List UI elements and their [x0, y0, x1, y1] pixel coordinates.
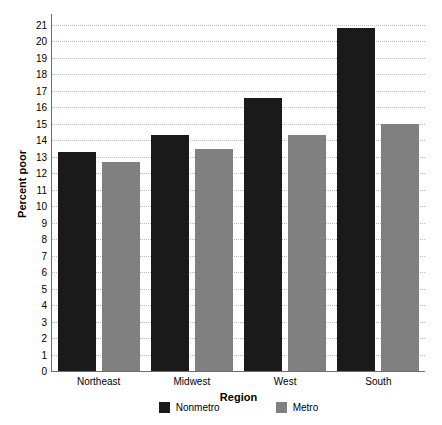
- bar-northeast-metro: [102, 162, 140, 371]
- y-tick-label: 14: [23, 135, 47, 146]
- y-tick-label: 21: [23, 20, 47, 31]
- y-tick-label: 20: [23, 36, 47, 47]
- x-tick-label-south: South: [365, 376, 391, 387]
- y-tick-label: 10: [23, 201, 47, 212]
- legend-label-metro: Metro: [293, 402, 319, 413]
- x-tick-label-northeast: Northeast: [77, 376, 120, 387]
- y-tick-label: 12: [23, 168, 47, 179]
- y-tick-label: 16: [23, 102, 47, 113]
- bar-south-nonmetro: [337, 28, 375, 371]
- gridline: [52, 25, 425, 26]
- y-tick-label: 9: [23, 217, 47, 228]
- bar-northeast-nonmetro: [58, 152, 96, 371]
- y-tick-label: 17: [23, 85, 47, 96]
- y-tick-label: 1: [23, 349, 47, 360]
- y-tick-label: 4: [23, 300, 47, 311]
- bar-west-metro: [288, 135, 326, 371]
- chart-legend: Nonmetro Metro: [52, 402, 425, 413]
- legend-item-metro: Metro: [276, 402, 319, 413]
- legend-item-nonmetro: Nonmetro: [159, 402, 220, 413]
- y-tick-label: 11: [23, 184, 47, 195]
- y-tick-label: 18: [23, 69, 47, 80]
- bar-midwest-nonmetro: [151, 135, 189, 371]
- y-tick-label: 7: [23, 250, 47, 261]
- x-tick-label-midwest: Midwest: [174, 376, 211, 387]
- bar-west-nonmetro: [244, 98, 282, 372]
- plot-area: 0123456789101112131415161718192021Northe…: [52, 25, 425, 371]
- y-tick-label: 0: [23, 366, 47, 377]
- bar-chart: Percent poor 012345678910111213141516171…: [0, 0, 442, 425]
- legend-swatch-icon-nonmetro: [159, 402, 170, 413]
- x-axis-line: [51, 371, 425, 372]
- legend-label-nonmetro: Nonmetro: [176, 402, 220, 413]
- x-tick-label-west: West: [274, 376, 297, 387]
- y-tick-label: 2: [23, 333, 47, 344]
- y-tick-label: 5: [23, 283, 47, 294]
- plot-inner: 0123456789101112131415161718192021Northe…: [52, 25, 425, 371]
- y-tick-label: 6: [23, 267, 47, 278]
- bar-south-metro: [381, 124, 419, 371]
- y-tick-label: 3: [23, 316, 47, 327]
- legend-swatch-icon-metro: [276, 402, 287, 413]
- bar-midwest-metro: [195, 149, 233, 371]
- y-tick-label: 8: [23, 234, 47, 245]
- y-tick-label: 15: [23, 118, 47, 129]
- y-tick-label: 19: [23, 52, 47, 63]
- y-tick-label: 13: [23, 151, 47, 162]
